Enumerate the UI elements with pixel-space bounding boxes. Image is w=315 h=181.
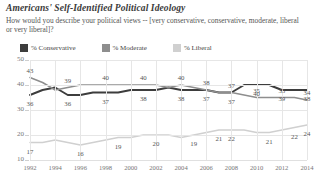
chart-subtitle: How would you describe your political vi… [6,16,306,34]
gridline-vertical [30,60,31,160]
legend-label-moderate: % Moderate [113,44,147,52]
data-label: 24 [299,130,315,137]
data-label: 36 [60,100,76,107]
legend-item-liberal: % Liberal [173,44,212,52]
y-axis-tick-label: 50 [8,55,24,63]
data-label: 40 [173,74,189,81]
gridline-vertical [80,60,81,160]
y-axis-tick-label: 10 [8,155,24,163]
data-label: 16 [72,150,88,157]
gridline-horizontal [30,85,307,86]
x-axis-tick-label: 1994 [42,164,68,171]
x-axis-tick-label: 2006 [193,164,219,171]
x-axis-tick-label: 1996 [67,164,93,171]
x-axis-line [30,160,307,161]
chart-container: Americans' Self-Identified Political Ide… [0,0,315,181]
chart-legend: % Conservative % Moderate % Liberal [20,44,212,52]
data-label: 35 [274,87,290,94]
y-axis-tick-label: 40 [8,80,24,88]
legend-swatch-conservative [20,44,28,52]
data-label: 17 [22,148,38,155]
gridline-vertical [55,60,56,160]
x-axis-tick-label: 1998 [93,164,119,171]
data-label: 40 [135,74,151,81]
legend-item-conservative: % Conservative [20,44,76,52]
gridline-horizontal [30,110,307,111]
y-axis-tick-label: 20 [8,130,24,138]
gridline-horizontal [30,135,307,136]
gridline-vertical [231,60,232,160]
data-label: 38 [173,95,189,102]
x-axis-tick-label: 2000 [118,164,144,171]
x-axis-tick-label: 2014 [294,164,315,171]
legend-item-moderate: % Moderate [102,44,147,52]
y-axis-tick [25,85,29,86]
page-title: Americans' Self-Identified Political Ide… [6,3,185,13]
y-axis-tick [25,60,29,61]
x-axis-tick-label: 2002 [143,164,169,171]
legend-label-conservative: % Conservative [31,44,76,52]
gridline-vertical [282,60,283,160]
legend-swatch-moderate [102,44,110,52]
gridline-vertical [131,60,132,160]
data-label: 19 [186,140,202,147]
x-axis-tick-label: 2004 [168,164,194,171]
data-label: 39 [60,77,76,84]
x-axis-tick-label: 1992 [17,164,43,171]
data-label: 22 [223,135,239,142]
data-label: 43 [22,67,38,74]
data-label: 37 [223,98,239,105]
data-label: 37 [98,98,114,105]
data-label: 37 [198,95,214,102]
legend-swatch-liberal [173,44,181,52]
data-label: 38 [198,79,214,86]
gridline-vertical [307,60,308,160]
data-label: 19 [110,143,126,150]
data-label: 38 [299,95,315,102]
x-axis-tick-label: 2008 [218,164,244,171]
data-label: 20 [148,140,164,147]
legend-label-liberal: % Liberal [184,44,212,52]
y-axis-tick [25,160,29,161]
data-label: 35 [249,87,265,94]
x-axis-tick-label: 2010 [244,164,270,171]
data-label: 38 [135,95,151,102]
gridline-vertical [206,60,207,160]
x-axis-tick-label: 2012 [269,164,295,171]
y-axis-tick [25,135,29,136]
data-label: 34 [299,89,315,96]
data-label: 40 [98,74,114,81]
plot-area [30,60,307,160]
gridline-vertical [257,60,258,160]
data-label: 37 [223,82,239,89]
data-label: 39 [274,95,290,102]
gridline-horizontal [30,60,307,61]
data-label: 21 [261,138,277,145]
data-label: 36 [22,100,38,107]
y-axis-tick [25,110,29,111]
